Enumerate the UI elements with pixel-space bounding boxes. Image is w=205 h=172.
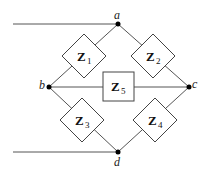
node-d (116, 150, 121, 155)
bridge-circuit-diagram: Z 1 Z 2 Z 3 Z 4 Z 5 a b c d (0, 0, 205, 172)
z3-subscript: 3 (85, 120, 90, 130)
z4-subscript: 4 (158, 120, 163, 130)
node-d-label: d (114, 155, 121, 169)
z2-symbol: Z (146, 49, 155, 64)
impedance-z2: Z 2 (131, 34, 175, 78)
node-b (47, 85, 52, 90)
impedance-z3: Z 3 (60, 98, 104, 142)
impedance-z5: Z 5 (103, 72, 134, 101)
node-c-label: c (192, 77, 198, 91)
node-b-label: b (39, 78, 45, 92)
node-a-label: a (114, 8, 120, 22)
z4-symbol: Z (148, 113, 157, 128)
z1-subscript: 1 (87, 56, 92, 66)
node-a (116, 22, 121, 27)
z3-symbol: Z (75, 113, 84, 128)
node-c (187, 85, 192, 90)
z2-subscript: 2 (156, 56, 161, 66)
z1-symbol: Z (77, 49, 86, 64)
z5-symbol: Z (111, 79, 120, 94)
z5-subscript: 5 (121, 86, 126, 96)
